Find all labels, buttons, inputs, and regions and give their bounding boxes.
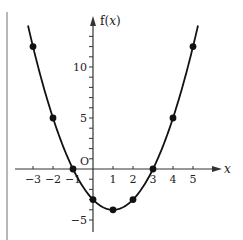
x-axis-arrow-icon	[212, 166, 222, 172]
y-axis-label: f(x)	[100, 14, 121, 28]
data-point	[130, 196, 137, 203]
function-graph: −3−2−112345105−5 f(x) x O	[0, 0, 243, 240]
data-point	[190, 43, 197, 50]
data-point	[70, 166, 77, 173]
y-tick-label: −5	[71, 214, 87, 227]
x-tick-label: −3	[25, 173, 41, 186]
data-point	[110, 206, 117, 213]
y-tick-label: 10	[73, 61, 87, 74]
x-tick-label: 2	[130, 173, 137, 186]
data-point	[150, 166, 157, 173]
x-tick-label: 5	[190, 173, 197, 186]
origin-label: O	[80, 155, 89, 168]
y-axis-arrow-icon	[90, 16, 96, 26]
data-point	[50, 115, 57, 122]
tick-labels: −3−2−112345105−5	[25, 61, 197, 227]
y-tick-label: 5	[80, 112, 87, 125]
x-tick-label: 4	[170, 173, 177, 186]
data-point	[90, 196, 97, 203]
x-axis-label: x	[224, 162, 231, 176]
data-point	[170, 115, 177, 122]
x-tick-label: −2	[45, 173, 61, 186]
data-point	[30, 43, 37, 50]
data-points	[30, 43, 197, 213]
x-tick-label: 1	[110, 173, 117, 186]
